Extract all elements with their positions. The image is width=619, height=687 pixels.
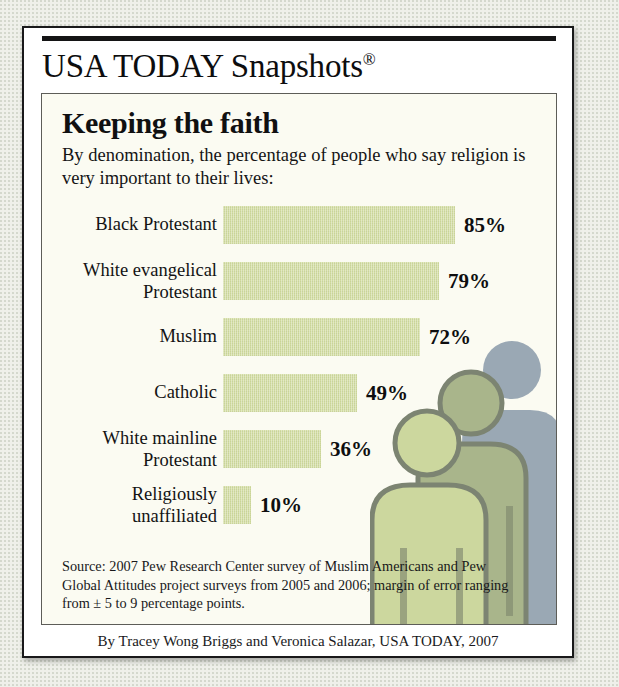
bar-track: 10% xyxy=(223,486,302,524)
chart-panel: Keeping the faith By denomination, the p… xyxy=(41,93,557,625)
bar-track: 85% xyxy=(223,206,506,244)
bar-category-line: unaffiliated xyxy=(41,505,217,527)
masthead-title: USA TODAY Snapshots® xyxy=(42,42,556,90)
bar-category-label: White mainline Protestant xyxy=(41,428,217,471)
byline: By Tracey Wong Briggs and Veronica Salaz… xyxy=(24,633,572,650)
bar-category-label: Muslim xyxy=(41,326,217,348)
bar-category-line: Protestant xyxy=(41,449,217,471)
bar-chart: Black Protestant 85% White evangelical P… xyxy=(42,197,556,533)
bar-value-label: 49% xyxy=(366,381,408,406)
bar-fill xyxy=(223,318,420,356)
bar-fill xyxy=(223,374,357,412)
bar-row: Religiously unaffiliated 10% xyxy=(42,477,556,533)
bar-category-line: Catholic xyxy=(41,382,217,404)
bar-row: White evangelical Protestant 79% xyxy=(42,253,556,309)
bar-row: Catholic 49% xyxy=(42,365,556,421)
bar-fill xyxy=(223,430,321,468)
registered-trademark-icon: ® xyxy=(363,50,376,69)
bar-category-line: Muslim xyxy=(41,326,217,348)
chart-subtitle: By denomination, the percentage of peopl… xyxy=(62,144,532,190)
bar-value-label: 72% xyxy=(429,325,471,350)
bar-fill xyxy=(223,262,439,300)
bar-value-label: 36% xyxy=(330,437,372,462)
bar-category-label: Catholic xyxy=(41,382,217,404)
bar-row: Black Protestant 85% xyxy=(42,197,556,253)
snapshot-frame: USA TODAY Snapshots® Keeping the xyxy=(22,26,574,658)
bar-category-line: Protestant xyxy=(41,281,217,303)
masthead-rule xyxy=(42,36,556,41)
bar-category-line: White mainline xyxy=(41,428,217,450)
page-title: Keeping the faith xyxy=(62,106,279,140)
bar-category-line: Religiously xyxy=(41,484,217,506)
bar-track: 72% xyxy=(223,318,471,356)
bar-category-label: Black Protestant xyxy=(41,214,217,236)
bar-value-label: 79% xyxy=(448,269,490,294)
bar-row: Muslim 72% xyxy=(42,309,556,365)
bar-track: 79% xyxy=(223,262,490,300)
bar-category-line: White evangelical xyxy=(41,260,217,282)
bar-value-label: 10% xyxy=(260,493,302,518)
bar-category-label: Religiously unaffiliated xyxy=(41,484,217,527)
bar-fill xyxy=(223,486,251,524)
bar-value-label: 85% xyxy=(464,213,506,238)
bar-track: 36% xyxy=(223,430,372,468)
bar-track: 49% xyxy=(223,374,408,412)
bar-row: White mainline Protestant 36% xyxy=(42,421,556,477)
bar-category-line: Black Protestant xyxy=(41,214,217,236)
bar-fill xyxy=(223,206,455,244)
masthead-text: USA TODAY Snapshots xyxy=(42,48,363,84)
bar-category-label: White evangelical Protestant xyxy=(41,260,217,303)
source-note: Source: 2007 Pew Research Center survey … xyxy=(62,557,514,612)
